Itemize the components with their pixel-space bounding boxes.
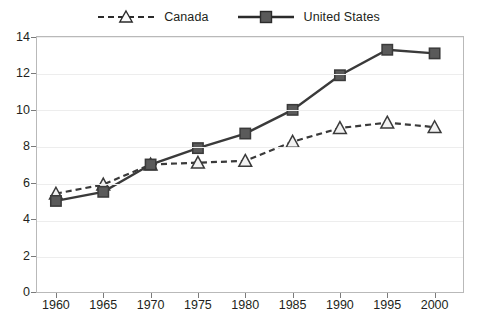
x-tick-mark xyxy=(103,293,104,298)
x-tick-mark xyxy=(151,293,152,298)
y-tick-mark xyxy=(31,256,36,257)
y-tick-label: 2 xyxy=(2,249,30,263)
gridline-6 xyxy=(37,184,463,185)
y-tick-mark xyxy=(31,292,36,293)
data-point-united-states xyxy=(145,159,155,169)
y-tick-mark xyxy=(31,110,36,111)
gridline-12 xyxy=(37,74,463,75)
data-point-canada xyxy=(334,122,347,134)
y-tick-label: 4 xyxy=(2,212,30,226)
x-tick-mark xyxy=(387,293,388,298)
x-tick-label: 1975 xyxy=(184,298,212,312)
x-axis: 196019651970197519801985199019952000 xyxy=(36,296,464,318)
data-point-united-states xyxy=(382,45,392,55)
y-tick-label: 14 xyxy=(2,30,30,44)
series-plot xyxy=(37,37,463,292)
x-tick-mark xyxy=(340,293,341,298)
series-line-united-states xyxy=(56,50,435,201)
legend-label-united-states: United States xyxy=(304,10,380,24)
chart-legend: Canada United States xyxy=(0,5,477,29)
y-tick-label: 0 xyxy=(2,285,30,299)
data-point-united-states xyxy=(429,48,439,58)
y-tick-label: 12 xyxy=(2,66,30,80)
gridline-4 xyxy=(37,221,463,222)
legend-marker-united-states-icon xyxy=(237,9,295,25)
y-tick-mark xyxy=(31,146,36,147)
legend-entry-canada: Canada xyxy=(97,9,208,25)
y-tick-label: 6 xyxy=(2,176,30,190)
plot-area xyxy=(36,36,464,293)
y-tick-mark xyxy=(31,73,36,74)
x-tick-label: 2000 xyxy=(421,298,449,312)
data-point-united-states xyxy=(240,128,250,138)
data-point-canada xyxy=(286,135,299,147)
x-tick-label: 1985 xyxy=(279,298,307,312)
x-tick-mark xyxy=(435,293,436,298)
y-tick-mark xyxy=(31,219,36,220)
gridline-8 xyxy=(37,147,463,148)
data-point-united-states xyxy=(98,187,108,197)
line-chart: Canada United States 02468101214 1960196… xyxy=(0,0,477,326)
data-point-united-states xyxy=(335,70,345,80)
data-point-united-states xyxy=(193,143,203,153)
gridline-14 xyxy=(37,37,463,38)
data-point-canada xyxy=(381,116,394,128)
x-tick-label: 1965 xyxy=(89,298,117,312)
x-tick-label: 1960 xyxy=(42,298,70,312)
y-tick-mark xyxy=(31,37,36,38)
x-tick-mark xyxy=(245,293,246,298)
x-tick-mark xyxy=(293,293,294,298)
y-tick-label: 8 xyxy=(2,139,30,153)
gridline-10 xyxy=(37,110,463,111)
y-axis: 02468101214 xyxy=(0,36,30,293)
data-point-canada xyxy=(239,154,252,166)
legend-marker-canada-icon xyxy=(97,9,155,25)
y-tick-mark xyxy=(31,183,36,184)
x-tick-mark xyxy=(56,293,57,298)
x-tick-label: 1990 xyxy=(326,298,354,312)
y-tick-label: 10 xyxy=(2,103,30,117)
gridline-2 xyxy=(37,257,463,258)
data-point-united-states xyxy=(51,196,61,206)
x-tick-label: 1970 xyxy=(137,298,165,312)
x-tick-label: 1980 xyxy=(231,298,259,312)
x-tick-label: 1995 xyxy=(373,298,401,312)
x-tick-mark xyxy=(198,293,199,298)
legend-entry-united-states: United States xyxy=(237,9,380,25)
legend-label-canada: Canada xyxy=(164,10,208,24)
